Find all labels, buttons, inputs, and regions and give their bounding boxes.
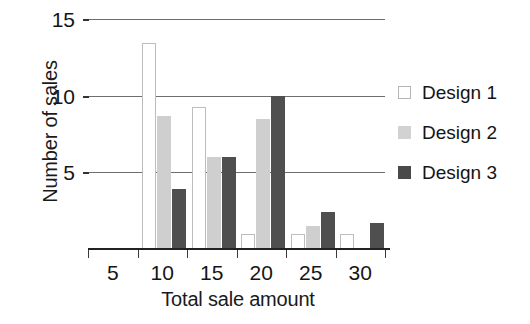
bar-design-1-bin-30 [340, 234, 354, 249]
x-tick-label-30: 30 [349, 262, 372, 283]
chart-legend: Design 1Design 2Design 3 [398, 72, 528, 192]
x-tick-label-5: 5 [107, 262, 119, 283]
bar-design-1-bin-20 [241, 234, 255, 249]
legend-swatch-design-3 [398, 166, 411, 179]
legend-item-design-2[interactable]: Design 2 [398, 112, 528, 152]
bar-design-1-bin-25 [291, 234, 305, 249]
legend-label: Design 3 [422, 163, 497, 182]
bar-design-2-bin-10 [157, 116, 171, 249]
legend-item-design-1[interactable]: Design 1 [398, 72, 528, 112]
x-axis-title: Total sale amount [88, 288, 388, 311]
bar-design-3-bin-25 [321, 212, 335, 249]
bar-chart-figure: Number of sales 15 10 5 51015202530 Tota… [0, 0, 530, 324]
x-tick-mark-5 [336, 250, 337, 258]
x-axis-ticks: 51015202530 [88, 19, 390, 89]
legend-label: Design 2 [422, 123, 497, 142]
y-tick-label-10: 10 [52, 85, 75, 106]
x-axis-line [88, 248, 390, 250]
bar-design-3-bin-20 [271, 96, 285, 249]
legend-label: Design 1 [422, 83, 497, 102]
x-tick-mark-4 [286, 250, 287, 258]
legend-item-design-3[interactable]: Design 3 [398, 152, 528, 192]
legend-swatch-design-2 [398, 126, 411, 139]
x-tick-mark-3 [237, 250, 238, 258]
x-tick-mark-0 [88, 250, 89, 258]
bar-design-2-bin-20 [256, 119, 270, 249]
bar-design-3-bin-10 [172, 189, 186, 249]
x-tick-mark-6 [385, 250, 386, 258]
x-tick-label-25: 25 [299, 262, 322, 283]
x-tick-label-20: 20 [250, 262, 273, 283]
bar-design-2-bin-25 [306, 226, 320, 249]
x-tick-mark-2 [187, 250, 188, 258]
x-tick-label-15: 15 [200, 262, 223, 283]
legend-swatch-design-1 [398, 86, 411, 99]
plot-area: 15 10 5 51015202530 [88, 19, 385, 249]
bar-design-1-bin-15 [192, 107, 206, 249]
y-tick-label-15: 15 [52, 9, 75, 30]
x-tick-label-10: 10 [151, 262, 174, 283]
bar-design-2-bin-15 [207, 157, 221, 249]
bar-design-3-bin-30 [370, 223, 384, 249]
y-tick-label-5: 5 [63, 162, 75, 183]
y-axis-title: Number of sales [39, 12, 62, 252]
bar-design-3-bin-15 [222, 157, 236, 249]
x-tick-mark-1 [138, 250, 139, 258]
